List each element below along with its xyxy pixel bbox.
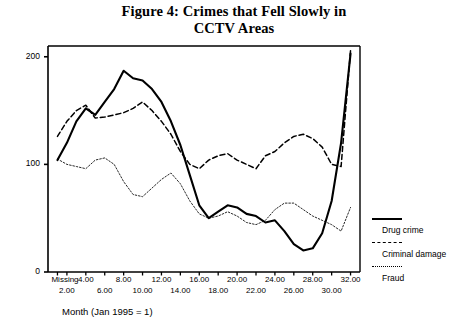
legend-key-solid-icon	[372, 218, 402, 220]
x-axis-caption: Month (Jan 1995 = 1)	[62, 306, 153, 317]
x-axis-tick-label: 28.00	[296, 275, 330, 284]
legend-item: Criminal damage	[372, 240, 468, 264]
x-axis-tick-label: 14.00	[163, 286, 197, 295]
legend-key-dotted-icon	[372, 266, 402, 267]
chart-axes	[44, 46, 360, 276]
chart-figure: Figure 4: Crimes that Fell Slowly in CCT…	[0, 0, 468, 333]
y-axis-tick-label: 100	[6, 159, 40, 168]
x-axis-tick-label: 32.00	[334, 275, 368, 284]
x-axis-tick-label: 18.00	[201, 286, 235, 295]
legend-item: Fraud	[372, 264, 468, 288]
chart-legend: Drug crimeCriminal damageFraud	[372, 216, 468, 288]
x-axis-tick-label: 6.00	[88, 286, 122, 295]
x-axis-tick-label: 22.00	[239, 286, 273, 295]
series-line	[57, 50, 350, 168]
x-axis-tick-label: 8.00	[107, 275, 141, 284]
legend-item: Drug crime	[372, 216, 468, 240]
x-axis-tick-label: 12.00	[144, 275, 178, 284]
legend-item-label: Criminal damage	[382, 249, 446, 259]
x-axis-tick-label: 30.00	[315, 286, 349, 295]
x-axis-tick-label: 4.00	[69, 275, 103, 284]
x-axis-tick-label: 26.00	[277, 286, 311, 295]
series-line	[57, 54, 350, 251]
x-axis-tick-label: 10.00	[126, 286, 160, 295]
series-line	[57, 158, 350, 231]
x-axis-tick-label: 24.00	[258, 275, 292, 284]
y-axis-tick-label: 200	[6, 52, 40, 61]
legend-item-label: Drug crime	[382, 225, 424, 235]
legend-key-dashed-icon	[372, 242, 402, 243]
chart-series-group	[57, 50, 350, 250]
x-axis-tick-label: 16.00	[182, 275, 216, 284]
x-axis-tick-label: 20.00	[220, 275, 254, 284]
x-axis-tick-label: 2.00	[50, 286, 84, 295]
legend-item-label: Fraud	[382, 273, 404, 283]
y-axis-tick-label: 0	[6, 267, 40, 276]
